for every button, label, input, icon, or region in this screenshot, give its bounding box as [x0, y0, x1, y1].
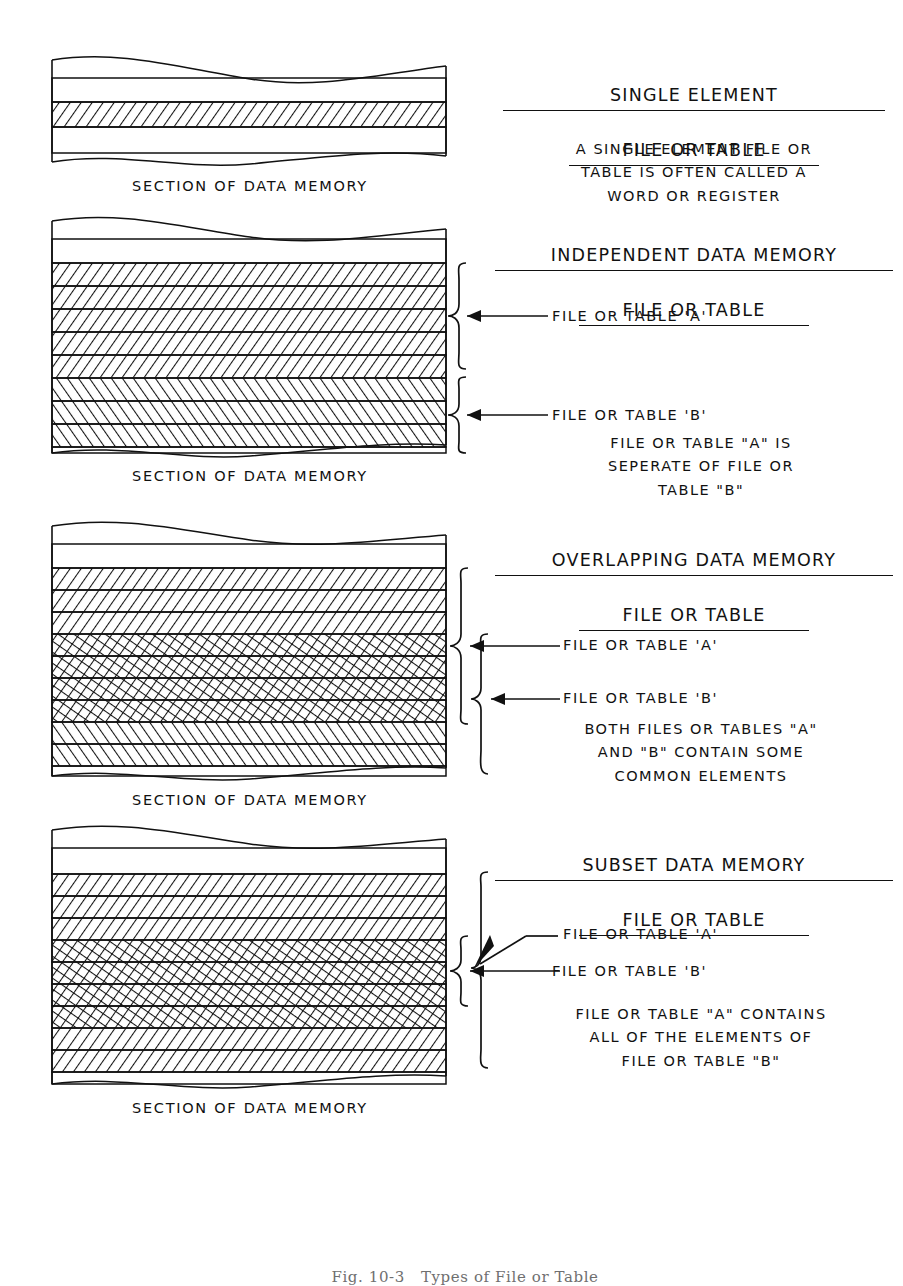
memory-caption-subset: SECTION OF DATA MEMORY	[50, 1098, 450, 1120]
heading-line-1: INDEPENDENT DATA MEMORY	[495, 243, 893, 270]
callout-label-overlapping-a: FILE OR TABLE 'A'	[563, 637, 718, 653]
heading-line-2: FILE OR TABLE	[579, 603, 809, 630]
callout-label-subset-b: FILE OR TABLE 'B'	[552, 963, 707, 979]
memory-caption-overlapping: SECTION OF DATA MEMORY	[50, 790, 450, 812]
section-heading-overlapping: OVERLAPPING DATA MEMORY FILE OR TABLE	[495, 523, 893, 633]
heading-line-1: SINGLE ELEMENT	[503, 83, 885, 110]
figure-caption: Fig. 10-3 Types of File or Table	[300, 1268, 630, 1286]
memory-block-subset	[50, 822, 450, 1094]
callout-label-subset-a: FILE OR TABLE 'A'	[563, 926, 718, 942]
memory-block-overlapping	[50, 518, 450, 786]
section-description-single-element: A SINGLE ELEMENT FILE OR TABLE IS OFTEN …	[503, 138, 885, 208]
callout-label-independent-b: FILE OR TABLE 'B'	[552, 407, 707, 423]
memory-block-single-element	[50, 52, 450, 170]
section-description-subset: FILE OR TABLE "A" CONTAINS ALL OF THE EL…	[505, 1003, 897, 1073]
memory-block-independent	[50, 213, 450, 461]
callout-label-overlapping-b: FILE OR TABLE 'B'	[563, 690, 718, 706]
section-description-overlapping: BOTH FILES OR TABLES "A" AND "B" CONTAIN…	[510, 718, 892, 788]
section-heading-subset: SUBSET DATA MEMORY FILE OR TABLE	[495, 828, 893, 938]
heading-line-1: OVERLAPPING DATA MEMORY	[495, 548, 893, 575]
memory-caption-single-element: SECTION OF DATA MEMORY	[50, 176, 450, 198]
heading-line-1: SUBSET DATA MEMORY	[495, 853, 893, 880]
callout-label-independent-a: FILE OR TABLE 'A'	[552, 308, 707, 324]
section-description-independent: FILE OR TABLE "A" IS SEPERATE OF FILE OR…	[510, 432, 892, 502]
memory-caption-independent: SECTION OF DATA MEMORY	[50, 466, 450, 488]
